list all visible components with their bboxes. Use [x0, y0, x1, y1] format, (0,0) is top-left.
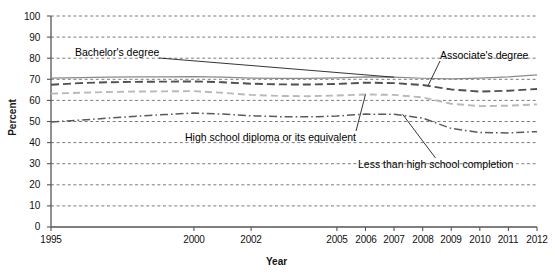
annotation-leader-lines-group: [159, 58, 440, 158]
chart-plot-area: [0, 0, 555, 277]
tick-marks-group: [47, 16, 537, 231]
series-line-2: [51, 91, 537, 106]
gridlines-group: [51, 16, 537, 206]
data-series-group: [51, 75, 537, 133]
chart-figure: Percent 100 90 80 70 60 50 40 30 20 10 0…: [0, 0, 555, 277]
series-line-3: [51, 113, 537, 133]
series-line-0: [51, 75, 537, 79]
series-line-1: [51, 81, 537, 91]
